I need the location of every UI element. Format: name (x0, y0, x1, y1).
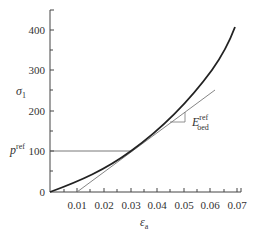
tangent-line (77, 90, 215, 192)
y-axis-label: σ1 (16, 84, 26, 100)
y-tick-label: 200 (29, 105, 46, 117)
x-ticks (64, 188, 237, 192)
stress-strain-curve (50, 27, 235, 192)
stress-strain-chart: 0 100 200 300 400 0.01 0.02 0.03 0.04 0.… (0, 0, 262, 231)
x-axis-label: εa (140, 215, 149, 231)
y-tick-label: 0 (40, 186, 46, 198)
y-tick-label: 400 (29, 24, 46, 36)
pref-label: pref (9, 142, 25, 157)
x-tick-label: 0.04 (147, 199, 167, 211)
eoed-label: Erefoed (191, 113, 209, 132)
x-tick-label: 0.06 (200, 199, 220, 211)
x-tick-label: 0.05 (174, 199, 194, 211)
x-tick-label: 0.03 (121, 199, 141, 211)
x-tick-label: 0.02 (94, 199, 113, 211)
x-tick-label: 0.01 (67, 199, 86, 211)
x-tick-label: 0.07 (227, 199, 247, 211)
y-tick-label: 300 (29, 64, 46, 76)
y-tick-label: 100 (29, 145, 46, 157)
y-ticks (50, 30, 54, 171)
